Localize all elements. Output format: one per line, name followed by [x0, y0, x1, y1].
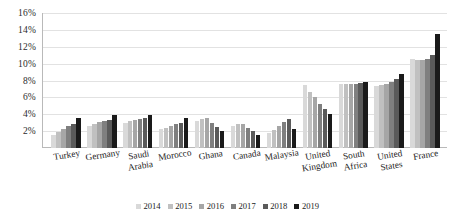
bar [399, 74, 403, 148]
legend-label: 2018 [270, 201, 287, 211]
y-axis-tick-label: 8% [23, 76, 36, 86]
bar-group [120, 13, 156, 148]
bar [112, 115, 116, 148]
legend-swatch [136, 204, 141, 209]
bar [267, 133, 271, 148]
chart-legend: 201420152016201720182019 [0, 201, 455, 211]
legend-item[interactable]: 2019 [294, 201, 319, 211]
legend-swatch [231, 204, 236, 209]
bar-group [228, 13, 264, 148]
bar [415, 60, 419, 148]
bar-group [48, 13, 84, 148]
bar-group [371, 13, 407, 148]
bar [374, 86, 378, 148]
bar [430, 55, 434, 148]
bar-chart: 2%4%6%8%10%12%14%16% TurkeyGermanySaudi … [0, 0, 455, 224]
bar [256, 135, 260, 149]
bar [76, 118, 80, 148]
bar [138, 119, 142, 148]
y-axis-tick-label: 14% [18, 25, 36, 35]
legend-label: 2015 [175, 201, 192, 211]
bar [51, 135, 55, 148]
legend-swatch [168, 204, 173, 209]
bar-groups [42, 13, 447, 148]
bar [379, 85, 383, 148]
bar-group [299, 13, 335, 148]
bar [87, 126, 91, 148]
legend-item[interactable]: 2016 [199, 201, 224, 211]
bar [318, 104, 322, 148]
bar [410, 59, 414, 148]
bar [287, 119, 291, 148]
bar [246, 128, 250, 148]
bar [143, 118, 147, 148]
bar [66, 126, 70, 148]
bar [174, 124, 178, 148]
legend-label: 2017 [239, 201, 256, 211]
bar [159, 129, 163, 148]
bar [251, 131, 255, 148]
bar [394, 79, 398, 148]
legend-swatch [199, 204, 204, 209]
x-axis-tick-label: Morocco [156, 147, 198, 192]
bar-group [84, 13, 120, 148]
bar [292, 129, 296, 148]
bar [128, 121, 132, 148]
bar [210, 123, 214, 148]
legend-item[interactable]: 2017 [231, 201, 256, 211]
bar [61, 129, 65, 148]
bar [420, 60, 424, 148]
bar [169, 126, 173, 148]
x-axis-tick-label: Ghana [192, 147, 234, 192]
bar-group [192, 13, 228, 148]
bar [308, 92, 312, 148]
bar [220, 131, 224, 148]
y-axis-tick-label: 2% [23, 126, 36, 136]
bar [384, 84, 388, 148]
bar [328, 114, 332, 148]
bar [272, 130, 276, 148]
bar [97, 122, 101, 148]
bar [323, 109, 327, 148]
bar [107, 120, 111, 148]
bar [200, 119, 204, 148]
bar [241, 124, 245, 148]
y-axis-labels: 2%4%6%8%10%12%14%16% [0, 13, 40, 148]
legend-swatch [294, 204, 299, 209]
legend-item[interactable]: 2015 [168, 201, 193, 211]
bar [339, 84, 343, 148]
bar [92, 124, 96, 148]
bar [231, 126, 235, 148]
bar [148, 115, 152, 148]
bar-group [407, 13, 443, 148]
bar [102, 121, 106, 148]
legend-swatch [263, 204, 268, 209]
bar [215, 127, 219, 148]
bar [425, 59, 429, 148]
bar [71, 124, 75, 148]
bar [277, 126, 281, 148]
y-axis-tick-label: 12% [18, 42, 36, 52]
y-axis-tick-label: 4% [23, 109, 36, 119]
bar [354, 84, 358, 148]
legend-label: 2019 [302, 201, 319, 211]
bar [179, 123, 183, 148]
x-axis-tick-label: France [407, 147, 449, 192]
legend-item[interactable]: 2018 [263, 201, 288, 211]
legend-label: 2014 [143, 201, 160, 211]
bar [358, 83, 362, 148]
bar [195, 121, 199, 148]
bar [133, 120, 137, 148]
bar-group [335, 13, 371, 148]
bar [164, 128, 168, 148]
bar [205, 118, 209, 148]
bar [344, 84, 348, 148]
bar [282, 122, 286, 148]
legend-label: 2016 [207, 201, 224, 211]
y-axis-tick-label: 6% [23, 92, 36, 102]
y-axis-tick-label: 10% [18, 59, 36, 69]
bar-group [156, 13, 192, 148]
bar [435, 34, 439, 148]
bar [184, 118, 188, 148]
legend-item[interactable]: 2014 [136, 201, 161, 211]
